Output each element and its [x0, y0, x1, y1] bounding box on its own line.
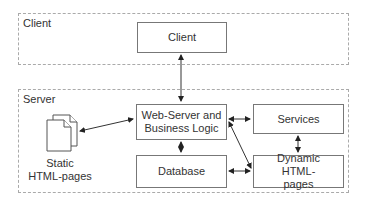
dynamic-pages-node[interactable]: Dynamic HTML-pages	[253, 155, 344, 188]
webserver-node[interactable]: Web-Server and Business Logic	[136, 104, 227, 140]
static-pages-caption: Static HTML-pages	[28, 157, 92, 183]
database-node[interactable]: Database	[136, 155, 227, 188]
client-node[interactable]: Client	[137, 22, 227, 53]
services-node[interactable]: Services	[253, 104, 344, 134]
static-pages-icon	[47, 115, 77, 151]
edge-webserver-static	[80, 119, 133, 131]
edge-webserver-dynamic	[229, 122, 251, 168]
